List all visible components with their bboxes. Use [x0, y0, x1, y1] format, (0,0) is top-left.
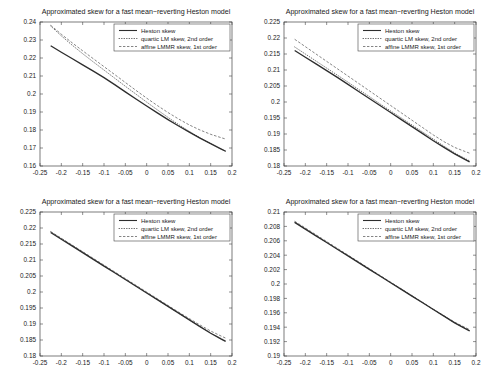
x-tick-label: 0.15 — [204, 359, 217, 366]
legend-label-quartic-lm-skew: quartic LM skew, 2nd order — [385, 226, 457, 232]
y-tick-label: 0.196 — [264, 309, 280, 316]
y-tick-label: 0.204 — [264, 252, 280, 259]
x-tick-label: -0.2 — [56, 359, 67, 366]
panel-bottom-left: Approximated skew for a fast mean−revert… — [0, 190, 244, 380]
y-tick-label: 0.21 — [268, 208, 281, 215]
x-tick-label: -0.25 — [33, 169, 48, 176]
legend-label-quartic-lm-skew: quartic LM skew, 2nd order — [141, 36, 213, 42]
x-tick-label: 0.2 — [228, 359, 237, 366]
y-tick-label: 0.206 — [264, 237, 280, 244]
series-line-heston-skew — [51, 46, 226, 151]
series-line-heston-skew — [51, 232, 226, 341]
x-tick-label: 0 — [389, 169, 393, 176]
x-tick-label: -0.25 — [277, 169, 292, 176]
y-tick-label: 0.208 — [264, 223, 280, 230]
legend-label-heston-skew: Heston skew — [385, 218, 420, 224]
x-tick-label: 0.2 — [472, 359, 481, 366]
x-tick-label: -0.1 — [98, 169, 109, 176]
x-tick-label: -0.25 — [277, 359, 292, 366]
legend-label-heston-skew: Heston skew — [141, 218, 176, 224]
legend-label-affine-lmmr-skew: affine LMMR skew, 1st order — [141, 44, 217, 50]
series-line-heston-skew — [295, 50, 470, 161]
y-tick-label: 0.2 — [27, 90, 36, 97]
y-tick-label: 0.19 — [24, 108, 37, 115]
x-tick-label: -0.15 — [319, 169, 334, 176]
y-tick-label: 0.225 — [264, 18, 280, 25]
y-tick-label: 0.19 — [24, 320, 37, 327]
y-tick-label: 0.185 — [264, 146, 280, 153]
y-tick-label: 0.2 — [27, 288, 36, 295]
y-tick-label: 0.195 — [20, 304, 36, 311]
y-tick-label: 0.19 — [268, 130, 281, 137]
x-tick-label: 0.15 — [204, 169, 217, 176]
y-tick-label: 0.194 — [264, 324, 280, 331]
x-tick-label: 0 — [145, 169, 149, 176]
legend-label-heston-skew: Heston skew — [141, 28, 176, 34]
x-tick-label: 0.1 — [429, 169, 438, 176]
x-tick-label: -0.15 — [319, 359, 334, 366]
y-tick-label: 0.22 — [24, 54, 37, 61]
y-tick-label: 0.24 — [24, 18, 37, 25]
panel-top-right: Approximated skew for a fast mean−revert… — [244, 0, 489, 190]
legend-label-quartic-lm-skew: quartic LM skew, 2nd order — [385, 36, 457, 42]
y-tick-label: 0.185 — [20, 336, 36, 343]
series-line-affine-lmmr-skew — [51, 232, 226, 339]
panel-top-left: Approximated skew for a fast mean−revert… — [0, 0, 244, 190]
plot-title: Approximated skew for a fast mean−revert… — [42, 198, 231, 206]
plot-title: Approximated skew for a fast mean−revert… — [286, 198, 475, 206]
y-tick-label: 0.192 — [264, 338, 280, 345]
x-tick-label: 0.2 — [228, 169, 237, 176]
y-tick-label: 0.205 — [264, 82, 280, 89]
plot-title: Approximated skew for a fast mean−revert… — [286, 8, 475, 16]
y-tick-label: 0.2 — [271, 280, 280, 287]
x-tick-label: 0.1 — [185, 359, 194, 366]
x-tick-label: 0.2 — [472, 169, 481, 176]
y-tick-label: 0.21 — [24, 72, 37, 79]
x-tick-label: -0.1 — [342, 169, 353, 176]
series-line-affine-lmmr-skew — [295, 39, 470, 153]
x-tick-label: -0.2 — [300, 169, 311, 176]
x-tick-label: 0.15 — [448, 169, 461, 176]
x-tick-label: -0.15 — [75, 359, 90, 366]
x-tick-label: -0.25 — [33, 359, 48, 366]
legend-label-quartic-lm-skew: quartic LM skew, 2nd order — [141, 226, 213, 232]
y-tick-label: 0.215 — [264, 50, 280, 57]
y-tick-label: 0.18 — [24, 126, 37, 133]
y-tick-label: 0.225 — [20, 208, 36, 215]
x-tick-label: -0.05 — [362, 169, 377, 176]
y-tick-label: 0.22 — [24, 224, 37, 231]
x-tick-label: -0.1 — [98, 359, 109, 366]
y-tick-label: 0.17 — [24, 144, 37, 151]
y-tick-label: 0.202 — [264, 266, 280, 273]
x-tick-label: -0.05 — [118, 359, 133, 366]
x-tick-label: 0.1 — [429, 359, 438, 366]
y-tick-label: 0.198 — [264, 295, 280, 302]
y-tick-label: 0.215 — [20, 240, 36, 247]
x-tick-label: -0.05 — [362, 359, 377, 366]
y-tick-label: 0.21 — [24, 256, 37, 263]
x-tick-label: -0.2 — [300, 359, 311, 366]
x-tick-label: 0.15 — [448, 359, 461, 366]
legend-label-heston-skew: Heston skew — [385, 28, 420, 34]
y-tick-label: 0.195 — [264, 114, 280, 121]
panel-bottom-right: Approximated skew for a fast mean−revert… — [244, 190, 489, 380]
y-tick-label: 0.22 — [268, 34, 281, 41]
x-tick-label: 0 — [389, 359, 393, 366]
figure-grid: Approximated skew for a fast mean−revert… — [0, 0, 489, 380]
y-tick-label: 0.2 — [271, 98, 280, 105]
x-tick-label: -0.15 — [75, 169, 90, 176]
plot-title: Approximated skew for a fast mean−revert… — [42, 8, 231, 16]
x-tick-label: -0.2 — [56, 169, 67, 176]
series-line-quartic-lm-skew — [295, 47, 470, 161]
x-tick-label: -0.05 — [118, 169, 133, 176]
legend-label-affine-lmmr-skew: affine LMMR skew, 1st order — [385, 44, 461, 50]
legend-label-affine-lmmr-skew: affine LMMR skew, 1st order — [385, 234, 461, 240]
x-tick-label: 0.05 — [162, 169, 175, 176]
y-tick-label: 0.205 — [20, 272, 36, 279]
x-tick-label: 0.05 — [162, 359, 175, 366]
legend-label-affine-lmmr-skew: affine LMMR skew, 1st order — [141, 234, 217, 240]
x-tick-label: 0.05 — [406, 359, 419, 366]
x-tick-label: 0.1 — [185, 169, 194, 176]
y-tick-label: 0.21 — [268, 66, 281, 73]
x-tick-label: 0 — [145, 359, 149, 366]
